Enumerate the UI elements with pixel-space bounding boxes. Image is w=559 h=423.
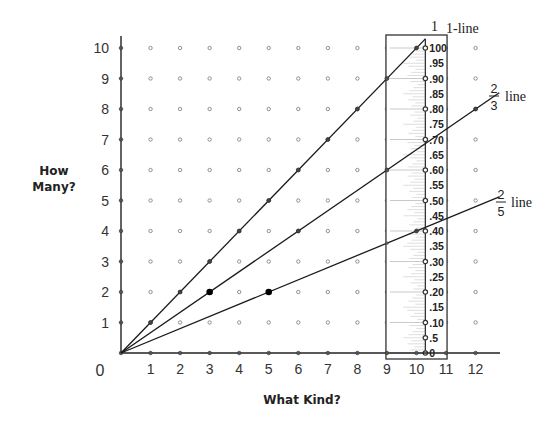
grid-dot bbox=[297, 290, 300, 293]
ruler-label: .90 bbox=[429, 73, 444, 85]
svg-text:3: 3 bbox=[491, 99, 498, 113]
x-axis-dot bbox=[237, 351, 241, 355]
x-tick-label: 12 bbox=[468, 361, 484, 377]
y-tick-label: 2 bbox=[101, 284, 109, 300]
label-2-3-line: 2 3 line bbox=[489, 82, 526, 113]
grid-dot bbox=[297, 321, 300, 324]
grid-dot bbox=[297, 107, 300, 110]
grid-dot bbox=[178, 46, 181, 49]
x-axis-dot bbox=[297, 351, 301, 355]
grid-dot bbox=[178, 138, 181, 141]
ruler-label: .40 bbox=[429, 225, 444, 237]
line-lattice-dot bbox=[415, 229, 419, 233]
grid-dot bbox=[326, 260, 329, 263]
label-2-5-line: 2 5 line bbox=[496, 188, 532, 219]
ruler-label: .50 bbox=[429, 195, 444, 207]
ruler: 0.5.10.15.20.25.30.35.40.45.50.55.60.65.… bbox=[386, 35, 447, 359]
ruler-label: .80 bbox=[429, 103, 444, 115]
line-cross-dot bbox=[385, 168, 388, 171]
grid-dot bbox=[149, 260, 152, 263]
grid-dot bbox=[326, 321, 329, 324]
grid-dot bbox=[326, 46, 329, 49]
grid-dot bbox=[208, 321, 211, 324]
grid-dot bbox=[267, 229, 270, 232]
y-axis-title-line1: How bbox=[39, 164, 68, 178]
y-tick-label: 7 bbox=[101, 132, 109, 148]
y-axis-dot bbox=[119, 199, 123, 203]
grid-dot bbox=[356, 290, 359, 293]
svg-text:1-line: 1-line bbox=[446, 21, 479, 36]
grid-dot bbox=[356, 46, 359, 49]
one-line bbox=[121, 39, 425, 353]
ruler-dot bbox=[423, 137, 427, 141]
x-axis-dot bbox=[178, 351, 182, 355]
grid-dot bbox=[238, 46, 241, 49]
x-axis-dot bbox=[385, 351, 389, 355]
x-tick-label: 8 bbox=[354, 361, 362, 377]
x-axis-dot bbox=[444, 351, 448, 355]
grid-dot bbox=[208, 199, 211, 202]
x-axis-dot bbox=[149, 351, 153, 355]
origin-label: 0 bbox=[96, 362, 105, 379]
ruler-dot bbox=[423, 290, 427, 294]
grid-dot bbox=[474, 77, 477, 80]
grid-dot bbox=[326, 107, 329, 110]
grid-dot bbox=[356, 321, 359, 324]
label-1-line: 1 1-line bbox=[431, 19, 479, 36]
line-cross-dot bbox=[385, 242, 388, 245]
grid-dot bbox=[238, 107, 241, 110]
grid-dot bbox=[356, 168, 359, 171]
y-tick-label: 1 bbox=[101, 315, 109, 331]
x-tick-label: 6 bbox=[294, 361, 302, 377]
ruler-dot bbox=[423, 229, 427, 233]
ruler-label: .30 bbox=[429, 256, 444, 268]
grid-dot bbox=[238, 138, 241, 141]
grid-dot bbox=[326, 168, 329, 171]
x-tick-label: 9 bbox=[383, 361, 391, 377]
line-lattice-dot bbox=[415, 46, 419, 50]
ruler-dot bbox=[423, 198, 427, 202]
grid-dot bbox=[297, 199, 300, 202]
grid-dot bbox=[326, 290, 329, 293]
ruler-label: .5 bbox=[429, 332, 438, 344]
y-tick-label: 4 bbox=[101, 223, 109, 239]
ruler-dot bbox=[423, 76, 427, 80]
grid-dot bbox=[178, 229, 181, 232]
grid-dot bbox=[474, 199, 477, 202]
x-tick-label: 3 bbox=[206, 361, 214, 377]
x-tick-label: 7 bbox=[324, 361, 332, 377]
ruler-label: .10 bbox=[429, 317, 444, 329]
grid-dot bbox=[267, 260, 270, 263]
y-axis-dot bbox=[119, 290, 123, 294]
svg-text:2: 2 bbox=[491, 82, 498, 96]
ruler-label: 100 bbox=[429, 42, 447, 54]
grid-dot bbox=[149, 290, 152, 293]
x-axis-dot bbox=[356, 351, 360, 355]
grid-dot bbox=[474, 321, 477, 324]
line-lattice-dot bbox=[149, 321, 153, 325]
line-lattice-dot bbox=[237, 229, 241, 233]
ruler-label: .35 bbox=[429, 240, 444, 252]
grid-dot bbox=[356, 229, 359, 232]
ruler-dot bbox=[423, 168, 427, 172]
ruler-label: .25 bbox=[429, 271, 444, 283]
grid-dot bbox=[149, 107, 152, 110]
y-axis-dot bbox=[119, 321, 123, 325]
grid-dot bbox=[149, 138, 152, 141]
line-lattice-dot bbox=[178, 290, 182, 294]
grid-dot bbox=[238, 168, 241, 171]
grid-dot bbox=[267, 107, 270, 110]
grid-dot bbox=[149, 229, 152, 232]
x-tick-label: 5 bbox=[265, 361, 273, 377]
y-axis-dot bbox=[119, 138, 123, 142]
grid-dot bbox=[267, 77, 270, 80]
grid-dot bbox=[238, 199, 241, 202]
grid-dot bbox=[267, 46, 270, 49]
y-tick-label: 6 bbox=[101, 162, 109, 178]
grid-dot bbox=[474, 138, 477, 141]
y-axis-dot bbox=[119, 229, 123, 233]
ruler-dot bbox=[423, 320, 427, 324]
grid-dot bbox=[149, 199, 152, 202]
line-lattice-dot bbox=[296, 229, 300, 233]
grid-dot bbox=[356, 260, 359, 263]
